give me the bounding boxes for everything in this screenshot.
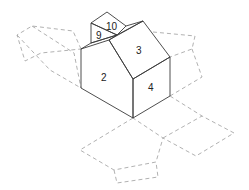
- label-4: 4: [148, 82, 154, 93]
- net-face-bottom-right-2: [163, 116, 202, 138]
- unfolded-net-dashed: [17, 26, 234, 183]
- net-face-left-roof: [32, 26, 81, 88]
- label-9: 9: [96, 30, 102, 41]
- house-net-diagram: 10 9 3 2 4: [0, 0, 249, 190]
- net-face-bottom-left: [80, 118, 163, 170]
- net-face-right-lower: [170, 49, 202, 96]
- net-face-bottom-tab: [114, 162, 158, 183]
- label-2: 2: [101, 72, 107, 83]
- face-labels: 10 9 3 2 4: [96, 21, 154, 93]
- label-3: 3: [136, 45, 142, 56]
- ridge-right-edge: [117, 21, 143, 35]
- face-2: [81, 40, 133, 118]
- label-10: 10: [106, 21, 118, 32]
- net-face-left-lower: [17, 35, 81, 88]
- house-solid: [81, 12, 170, 118]
- net-face-left-top: [17, 26, 81, 61]
- net-face-right: [153, 32, 195, 57]
